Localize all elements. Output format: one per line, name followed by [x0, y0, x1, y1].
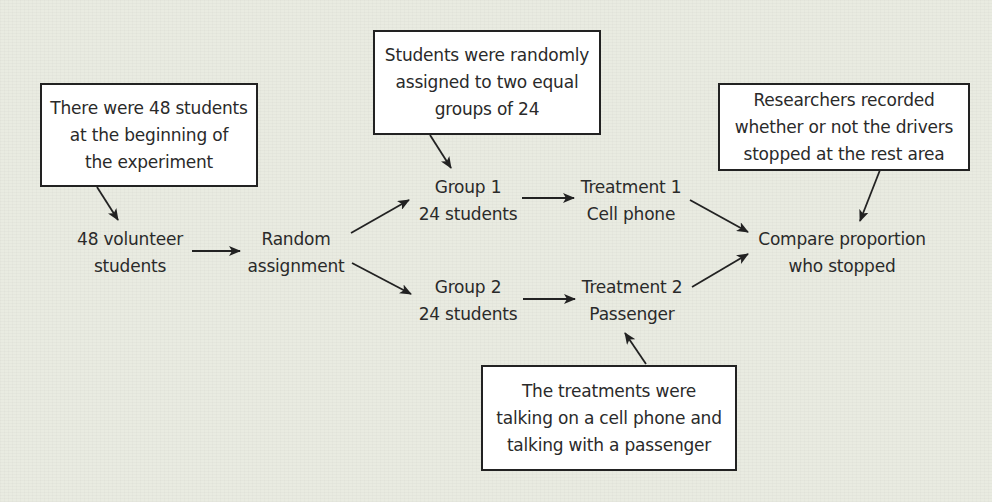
node-line: Treatment 2: [575, 274, 689, 301]
node-line: students: [70, 253, 190, 280]
node-group1: Group 1 24 students: [412, 174, 524, 228]
callout-line: talking with a passenger: [507, 432, 711, 459]
arrow-random-to-group1: [351, 200, 409, 233]
node-line: 48 volunteer: [70, 226, 190, 253]
callout-line: Students were randomly: [385, 42, 589, 69]
node-compare: Compare proportion who stopped: [752, 226, 932, 280]
callout-line: at the beginning of: [70, 122, 228, 149]
callout-students-count: There were 48 students at the beginning …: [40, 83, 258, 187]
node-line: 24 students: [412, 201, 524, 228]
callout-line: whether or not the drivers: [735, 114, 953, 141]
node-line: Compare proportion: [752, 226, 932, 253]
callout-treatments: The treatments were talking on a cell ph…: [481, 365, 737, 471]
arrow-callout-to-compare: [860, 170, 880, 221]
node-line: Passenger: [575, 301, 689, 328]
arrow-callout-to-group1: [430, 135, 451, 168]
node-line: Cell phone: [574, 201, 688, 228]
node-treatment2: Treatment 2 Passenger: [575, 274, 689, 328]
callout-line: stopped at the rest area: [743, 141, 944, 168]
node-line: assignment: [240, 253, 352, 280]
node-line: Treatment 1: [574, 174, 688, 201]
node-random-assignment: Random assignment: [240, 226, 352, 280]
node-line: Random: [240, 226, 352, 253]
callout-line: groups of 24: [435, 96, 540, 123]
arrow-treatment1-to-compare: [690, 200, 748, 232]
callout-random-groups: Students were randomly assigned to two e…: [373, 30, 601, 135]
node-group2: Group 2 24 students: [412, 274, 524, 328]
arrow-callout-to-treatment2: [625, 333, 646, 364]
node-line: Group 2: [412, 274, 524, 301]
callout-line: assigned to two equal: [396, 69, 579, 96]
node-volunteers: 48 volunteer students: [70, 226, 190, 280]
node-line: 24 students: [412, 301, 524, 328]
callout-line: There were 48 students: [50, 95, 247, 122]
callout-line: the experiment: [85, 149, 213, 176]
node-line: who stopped: [752, 253, 932, 280]
node-line: Group 1: [412, 174, 524, 201]
arrow-callout-to-volunteers: [97, 187, 118, 220]
callout-recorded: Researchers recorded whether or not the …: [718, 83, 970, 171]
callout-line: The treatments were: [522, 378, 696, 405]
node-treatment1: Treatment 1 Cell phone: [574, 174, 688, 228]
arrow-random-to-group2: [352, 263, 411, 294]
callout-line: talking on a cell phone and: [496, 405, 722, 432]
callout-line: Researchers recorded: [753, 87, 934, 114]
arrow-treatment2-to-compare: [692, 254, 748, 287]
